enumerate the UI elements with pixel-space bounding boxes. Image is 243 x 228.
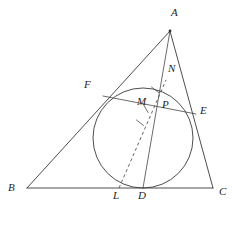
geometry-figure: A B C D E F L M N P: [0, 0, 243, 228]
point-label-M: M: [137, 96, 146, 107]
point-label-L: L: [113, 190, 119, 201]
point-label-D: D: [138, 190, 146, 201]
point-label-B: B: [8, 182, 15, 193]
point-label-F: F: [84, 79, 91, 90]
point-label-P: P: [162, 99, 169, 110]
tick-mark-on-dashed-lower: [137, 120, 144, 126]
point-label-C: C: [219, 186, 226, 197]
point-label-E: E: [200, 105, 207, 116]
point-label-N: N: [168, 63, 175, 74]
segment-chord-FE: [103, 96, 196, 114]
segment-side-AB: [27, 31, 170, 188]
vertex-dot-A: [169, 30, 172, 33]
point-label-A: A: [171, 7, 178, 18]
